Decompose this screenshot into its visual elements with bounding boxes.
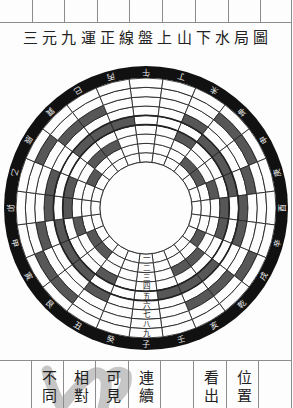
period-label: 五 [143, 292, 151, 301]
san-yuan-jiu-yun-wheel-diagram: 午丁未坤申庚酉辛戌乾亥壬子癸丑艮寅甲卯乙辰巽巳丙一二三四五六七八九 [0, 0, 293, 408]
ring-cell [201, 200, 211, 217]
book-page: 三元九運正線盤上山下水局圖 午丁未坤申庚酉辛戌乾亥壬子癸丑艮寅甲卯乙辰巽巳丙一二… [0, 0, 293, 408]
bottom-text-column: 相對 [64, 361, 96, 408]
period-label: 九 [143, 329, 151, 338]
ring-cell [256, 192, 266, 224]
column-text: 連續 [136, 370, 153, 408]
period-label: 四 [143, 282, 150, 291]
period-label: 三 [143, 273, 150, 282]
mountain-label: 酉 [278, 204, 287, 212]
ring-cell [72, 198, 82, 217]
shaded-cell [63, 197, 73, 219]
ring-cell [139, 153, 153, 163]
period-label: 二 [143, 264, 151, 273]
mountain-label: 午 [142, 68, 150, 78]
ring-cell [81, 200, 91, 217]
period-label: 八 [143, 320, 151, 329]
column-text: 可見 [104, 370, 121, 408]
ring-cell [129, 78, 163, 88]
ring-cell [247, 193, 257, 222]
ring-cell [35, 193, 45, 222]
ring-cell [138, 143, 155, 153]
period-label: 七 [143, 310, 151, 319]
ring-cell [210, 198, 220, 217]
ring-cell [266, 191, 276, 225]
period-labels: 一二三四五六七八九 [143, 254, 151, 338]
bottom-text-column: 不同 [32, 361, 64, 408]
period-label: 六 [143, 300, 151, 310]
bottom-text-column: 可見 [96, 361, 129, 408]
ring-cell [131, 97, 160, 107]
mountain-label: 卯 [6, 204, 15, 212]
bottom-text-column [0, 361, 32, 408]
column-text: 位置 [234, 370, 251, 408]
ring-cell [192, 201, 202, 215]
bottom-text-column [161, 361, 194, 408]
column-text: 相對 [71, 370, 88, 408]
ring-cell [16, 191, 26, 225]
bottom-text-column: 看出 [194, 361, 227, 408]
shaded-cell [219, 197, 229, 219]
period-label: 一 [143, 254, 151, 263]
ring-cell [135, 125, 157, 135]
ring-cell [136, 134, 155, 144]
ring-cell [91, 201, 101, 215]
bottom-text-column: 連續 [129, 361, 161, 408]
bottom-text-column: 位置 [227, 361, 259, 408]
bottom-text-column [259, 361, 291, 408]
ring-cell [25, 192, 35, 224]
ring-cell [130, 87, 162, 97]
column-text: 不同 [39, 370, 56, 408]
column-text: 看出 [202, 370, 219, 408]
center-circle [100, 162, 192, 254]
mountain-label: 子 [142, 340, 150, 349]
